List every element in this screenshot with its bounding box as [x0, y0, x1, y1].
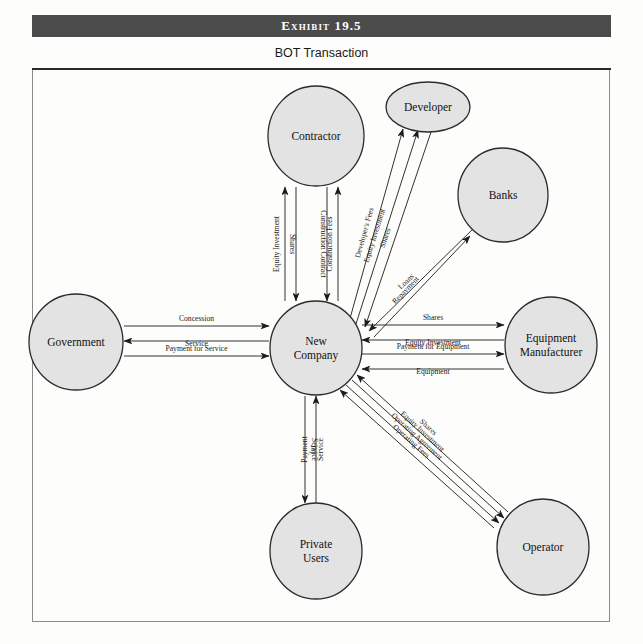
node-contractor[interactable]: Contractor [268, 86, 364, 186]
edge-label-e10: Concession [179, 314, 214, 323]
node-privateusers[interactable]: PrivateUsers [270, 503, 362, 599]
edge-label-e12: Payment for Service [166, 344, 229, 353]
node-shape [270, 301, 362, 395]
edge-label-e4: Construction Fees [325, 216, 334, 271]
edge-label-e1: Equity Investment [272, 215, 281, 272]
exhibit-figure: Exhibit 19.5 BOT Transaction ContractorD… [0, 0, 643, 644]
edge-line [340, 390, 494, 528]
node-shape [505, 297, 597, 393]
node-banks[interactable]: Banks [458, 148, 548, 242]
node-newcompany[interactable]: NewCompany [270, 301, 362, 395]
node-government[interactable]: Government [29, 294, 123, 390]
node-layer: ContractorDeveloperBanksGovernmentNewCom… [29, 82, 597, 599]
edge-label-e2: Shares [288, 234, 297, 254]
node-equipment[interactable]: EquipmentManufacturer [505, 297, 597, 393]
node-operator[interactable]: Operator [497, 499, 589, 595]
edge-label-e21: Operating Agreement [390, 411, 445, 462]
node-label-operator: Operator [523, 541, 564, 554]
node-label-contractor: Contractor [291, 130, 340, 142]
node-developer[interactable]: Developer [386, 82, 470, 132]
edge-e22[interactable] [340, 390, 494, 528]
edge-label-e13: Shares [423, 313, 443, 322]
node-label-developer: Developer [404, 101, 452, 114]
edge-label-e16: Equipment [416, 367, 450, 376]
node-label-government: Government [47, 336, 105, 348]
node-label-banks: Banks [489, 189, 518, 201]
edge-label-e15: Payment for Equipment [397, 342, 470, 351]
diagram-canvas: ContractorDeveloperBanksGovernmentNewCom… [0, 0, 643, 644]
node-shape [270, 503, 362, 599]
